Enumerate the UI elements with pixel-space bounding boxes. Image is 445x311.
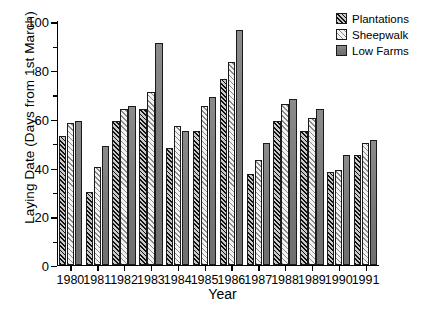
bar xyxy=(220,79,227,264)
y-tick-label: 0 xyxy=(42,259,49,274)
y-tick-label: 40 xyxy=(35,161,49,176)
bar xyxy=(327,172,334,265)
x-tick-label: 1991 xyxy=(352,273,380,287)
bar xyxy=(112,121,119,265)
legend-item: Low Farms xyxy=(336,44,409,58)
legend-swatch-icon xyxy=(336,45,347,56)
bar xyxy=(247,174,254,264)
bar xyxy=(236,30,243,265)
x-tick-label: 1990 xyxy=(325,273,353,287)
y-tick-minor xyxy=(53,242,57,243)
x-tick xyxy=(231,266,232,271)
bar-group xyxy=(166,21,189,265)
y-tick xyxy=(51,217,57,218)
bar xyxy=(209,97,216,265)
bar xyxy=(228,62,235,264)
x-tick xyxy=(124,266,125,271)
x-tick-label: 1984 xyxy=(164,273,192,287)
y-tick-minor xyxy=(53,144,57,145)
x-tick xyxy=(312,266,313,271)
y-tick-minor xyxy=(53,95,57,96)
x-axis-line xyxy=(57,265,379,266)
bar xyxy=(86,192,93,265)
y-tick-minor xyxy=(53,47,57,48)
bar xyxy=(75,121,82,265)
bar xyxy=(139,109,146,265)
x-tick-label: 1987 xyxy=(244,273,272,287)
bar xyxy=(94,167,101,264)
y-tick xyxy=(51,169,57,170)
y-tick xyxy=(51,71,57,72)
bar xyxy=(300,131,307,265)
x-tick-label: 1982 xyxy=(110,273,138,287)
y-tick xyxy=(51,120,57,121)
bar-group xyxy=(300,21,323,265)
legend-swatch-icon xyxy=(336,29,347,40)
bar-group xyxy=(112,21,135,265)
bar xyxy=(155,43,162,265)
bar xyxy=(67,123,74,264)
y-tick-label: 20 xyxy=(35,210,49,225)
legend-item: Sheepwalk xyxy=(336,28,409,42)
x-tick xyxy=(258,266,259,271)
x-tick-label: 1989 xyxy=(298,273,326,287)
bar xyxy=(147,92,154,265)
y-tick-label: 60 xyxy=(35,112,49,127)
x-tick xyxy=(339,266,340,271)
bar xyxy=(273,121,280,265)
legend-label: Sheepwalk xyxy=(352,29,408,41)
bar-group xyxy=(86,21,109,265)
x-tick xyxy=(151,266,152,271)
y-tick-minor xyxy=(53,193,57,194)
bar xyxy=(281,104,288,265)
bar-group xyxy=(273,21,296,265)
x-tick-label: 1983 xyxy=(137,273,165,287)
y-tick-label: 80 xyxy=(35,64,49,79)
bar xyxy=(193,131,200,265)
legend-label: Plantations xyxy=(352,13,409,25)
legend-item: Plantations xyxy=(336,12,409,26)
bar-group xyxy=(139,21,162,265)
x-tick-label: 1988 xyxy=(271,273,299,287)
y-tick xyxy=(51,266,57,267)
bar xyxy=(120,109,127,265)
legend: PlantationsSheepwalkLow Farms xyxy=(336,12,409,60)
x-tick xyxy=(97,266,98,271)
bar xyxy=(343,155,350,265)
bar xyxy=(316,109,323,265)
x-tick xyxy=(366,266,367,271)
bar-group xyxy=(193,21,216,265)
x-tick-label: 1981 xyxy=(83,273,111,287)
bar-group xyxy=(59,21,82,265)
bar xyxy=(335,170,342,265)
bar xyxy=(201,106,208,264)
bar xyxy=(59,136,66,265)
plot-area: 020406080100 198019811982198319841985198… xyxy=(57,21,379,266)
y-tick xyxy=(51,22,57,23)
legend-swatch-icon xyxy=(336,13,347,24)
x-tick-label: 1980 xyxy=(57,273,85,287)
bar xyxy=(370,140,377,264)
bar-group xyxy=(247,21,270,265)
bar xyxy=(263,143,270,265)
x-tick-label: 1985 xyxy=(191,273,219,287)
bar xyxy=(289,99,296,265)
bar-group xyxy=(220,21,243,265)
bar xyxy=(354,155,361,265)
x-tick xyxy=(70,266,71,271)
bar xyxy=(174,126,181,265)
bar xyxy=(182,131,189,265)
bar xyxy=(362,143,369,265)
y-tick-label: 100 xyxy=(27,15,49,30)
x-tick xyxy=(178,266,179,271)
bar-chart: Laying Date (Days from 1st March) Year 0… xyxy=(0,0,445,311)
bar xyxy=(102,146,109,264)
legend-label: Low Farms xyxy=(352,45,409,57)
x-tick xyxy=(285,266,286,271)
x-tick xyxy=(205,266,206,271)
x-axis-title: Year xyxy=(0,286,445,302)
bar xyxy=(255,160,262,265)
bar xyxy=(308,118,315,264)
x-tick-label: 1986 xyxy=(218,273,246,287)
bar xyxy=(166,148,173,265)
